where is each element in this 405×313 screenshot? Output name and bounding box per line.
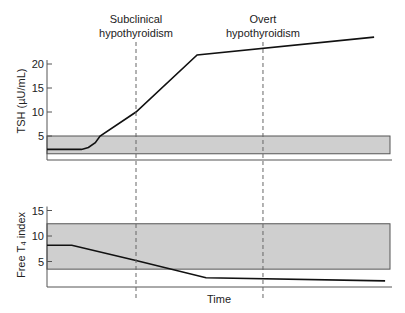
y-tick-label: 10 [32,230,44,242]
free-t4-y-axis-label: Free T₄ index [15,211,27,278]
annotation-subclinical: Subclinical hypothyroidism [99,13,173,39]
tsh-y-axis-label: TSH (µU/mL) [15,68,27,133]
y-tick-label: 10 [32,106,44,118]
tsh-series-line [47,37,374,149]
y-tick-label: 20 [32,58,44,70]
annotation-overt: Overt hypothyroidism [226,13,300,39]
tsh-y-ticks: 5101520 [32,58,52,142]
free-t4-reference-band [47,224,390,269]
free-t4-panel: 51015 Free T₄ index Time [15,205,392,306]
annotation-subclinical-line2: hypothyroidism [99,27,173,39]
annotation-overt-line2: hypothyroidism [226,27,300,39]
thyroid-chart: Subclinical hypothyroidism Overt hypothy… [0,0,405,313]
annotation-overt-line1: Overt [250,13,277,25]
time-x-axis-label: Time [207,293,231,305]
y-tick-label: 5 [38,130,44,142]
y-tick-label: 15 [32,205,44,217]
y-tick-label: 5 [38,256,44,268]
y-tick-label: 15 [32,82,44,94]
tsh-panel: 5101520 TSH (µU/mL) [15,37,392,160]
annotation-subclinical-line1: Subclinical [110,13,163,25]
